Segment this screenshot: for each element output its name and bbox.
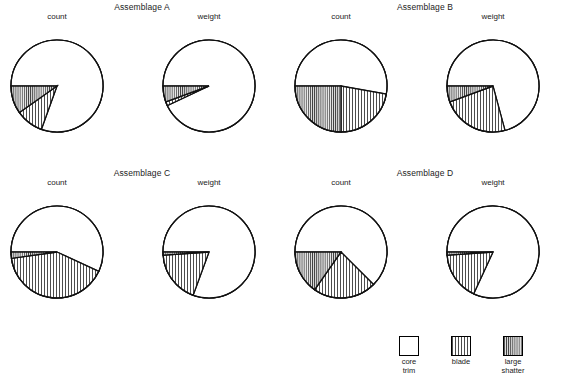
assemblage-panel-c: Assemblage Ccountweight <box>0 168 284 334</box>
assemblage-panel-d: Assemblage Dcountweight <box>283 168 567 334</box>
assemblage-panel-b: Assemblage Bcountweight <box>283 2 567 168</box>
pie-chart-d-weight: weight <box>441 168 545 328</box>
pie-svg <box>441 168 545 328</box>
legend-swatch-large-shatter <box>503 336 523 356</box>
legend-label-core-trim: coretrim <box>386 358 432 375</box>
legend-entry-large-shatter: largeshatter <box>490 336 536 375</box>
pie-wedge-blade <box>341 86 386 132</box>
legend-entry-core-trim: coretrim <box>386 336 432 375</box>
legend-label-line1: blade <box>438 358 484 367</box>
pie-chart-c-count: count <box>5 168 109 328</box>
pie-subtitle-weight: weight <box>441 178 545 187</box>
pie-subtitle-count: count <box>289 178 393 187</box>
pie-subtitle-weight: weight <box>157 12 261 21</box>
pie-subtitle-weight: weight <box>441 12 545 21</box>
pie-chart-b-count: count <box>289 2 393 162</box>
pie-chart-d-count: count <box>289 168 393 328</box>
legend-label-line2: shatter <box>490 367 536 376</box>
pie-svg <box>157 2 261 162</box>
legend-label-large-shatter: largeshatter <box>490 358 536 375</box>
pie-wedge-large-shatter <box>295 86 341 132</box>
pie-svg <box>157 168 261 328</box>
pie-chart-figure: Assemblage AcountweightAssemblage Bcount… <box>0 0 567 380</box>
pie-subtitle-count: count <box>289 12 393 21</box>
pie-chart-a-weight: weight <box>157 2 261 162</box>
pie-svg <box>289 2 393 162</box>
pie-chart-c-weight: weight <box>157 168 261 328</box>
pie-subtitle-weight: weight <box>157 178 261 187</box>
pie-subtitle-count: count <box>5 12 109 21</box>
pie-svg <box>441 2 545 162</box>
legend-swatch-core-trim <box>399 336 419 356</box>
legend: coretrimbladelargeshatter <box>386 336 546 378</box>
legend-swatch-blade <box>451 336 471 356</box>
pie-svg <box>5 2 109 162</box>
legend-entry-blade: blade <box>438 336 484 367</box>
legend-swatch-pattern <box>452 337 470 355</box>
legend-label-blade: blade <box>438 358 484 367</box>
pie-subtitle-count: count <box>5 178 109 187</box>
pie-svg <box>289 168 393 328</box>
legend-swatch-pattern <box>400 337 418 355</box>
legend-swatch-pattern <box>504 337 522 355</box>
pie-chart-a-count: count <box>5 2 109 162</box>
assemblage-panel-a: Assemblage Acountweight <box>0 2 284 168</box>
pie-chart-b-weight: weight <box>441 2 545 162</box>
pie-svg <box>5 168 109 328</box>
legend-label-line2: trim <box>386 367 432 376</box>
